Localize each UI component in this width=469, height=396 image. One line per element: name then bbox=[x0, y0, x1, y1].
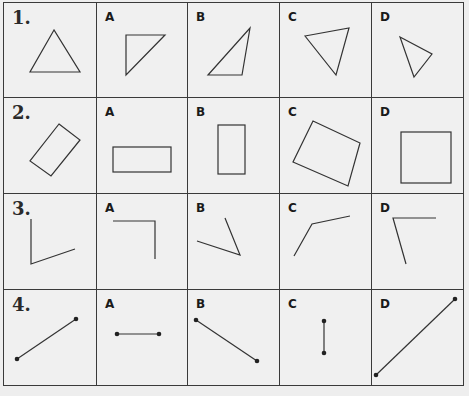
tilted-rectangle-icon bbox=[280, 98, 371, 193]
acute-angle-icon bbox=[4, 194, 96, 289]
question-1-cell: 1. bbox=[4, 3, 97, 98]
option-2a[interactable]: A bbox=[97, 98, 188, 194]
right-triangle-icon bbox=[97, 3, 187, 97]
option-2d[interactable]: D bbox=[372, 98, 463, 194]
question-4-cell: 4. bbox=[4, 290, 97, 385]
option-3b[interactable]: B bbox=[188, 194, 280, 290]
horizontal-segment-icon bbox=[97, 290, 187, 385]
horizontal-rectangle-icon bbox=[97, 98, 187, 193]
option-3c[interactable]: C bbox=[280, 194, 372, 290]
acute-angle-open-icon bbox=[372, 194, 463, 289]
option-1b[interactable]: B bbox=[188, 3, 280, 98]
option-1d[interactable]: D bbox=[372, 3, 463, 98]
option-3a[interactable]: A bbox=[97, 194, 188, 290]
option-2c[interactable]: C bbox=[280, 98, 372, 194]
obtuse-triangle-icon bbox=[188, 3, 279, 97]
option-1c[interactable]: C bbox=[280, 3, 372, 98]
inverted-triangle-icon bbox=[280, 3, 371, 97]
square-icon bbox=[372, 98, 463, 193]
vertical-rectangle-icon bbox=[188, 98, 279, 193]
descending-segment-icon bbox=[188, 290, 279, 385]
right-angle-icon bbox=[97, 194, 187, 289]
equilateral-triangle-icon bbox=[4, 3, 96, 97]
question-2-cell: 2. bbox=[4, 98, 97, 194]
obtuse-angle-icon bbox=[280, 194, 371, 289]
small-rotated-triangle-icon bbox=[372, 3, 463, 97]
option-3d[interactable]: D bbox=[372, 194, 463, 290]
option-4c[interactable]: C bbox=[280, 290, 372, 385]
option-4a[interactable]: A bbox=[97, 290, 188, 385]
option-1a[interactable]: A bbox=[97, 3, 188, 98]
shape-matching-worksheet: 1. A B C D 2. A B C D 3. A bbox=[3, 2, 464, 386]
option-4d[interactable]: D bbox=[372, 290, 463, 385]
acute-angle-rotated-icon bbox=[188, 194, 279, 289]
option-4b[interactable]: B bbox=[188, 290, 280, 385]
long-diagonal-segment-icon bbox=[372, 290, 463, 385]
vertical-segment-icon bbox=[280, 290, 371, 385]
line-segment-icon bbox=[4, 290, 96, 385]
question-3-cell: 3. bbox=[4, 194, 97, 290]
rotated-rectangle-icon bbox=[4, 98, 96, 193]
option-2b[interactable]: B bbox=[188, 98, 280, 194]
